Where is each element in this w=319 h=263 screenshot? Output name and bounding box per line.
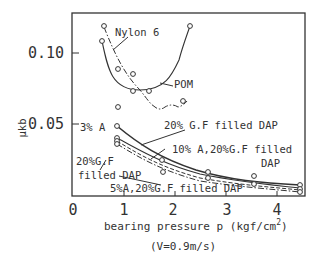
x-axis-label: bearing pressure p (kgf/cm2) — [104, 218, 288, 233]
y-tick-label-010: 0.10 — [28, 44, 64, 62]
y-tick-label-005: 0.05 — [28, 115, 64, 133]
x-tick-label-3: 3 — [222, 201, 231, 219]
label-nylon6: Nylon 6 — [115, 26, 159, 38]
label-pom: POM — [174, 78, 193, 90]
x-tick-label-0: 0 — [68, 201, 77, 219]
label-5a-20gf: 5%A,20%G.F filled DAP — [110, 182, 243, 194]
x-tick-label-2: 2 — [168, 201, 177, 219]
label-10a-20gf: 10% A,20%G.F filled — [172, 143, 292, 155]
condition-label: (V=0.9m/s) — [150, 240, 216, 253]
y-axis-label: μkb — [16, 119, 28, 138]
x-tick-label-4: 4 — [272, 201, 281, 219]
x-tick-label-1: 1 — [119, 201, 128, 219]
label-filled-dap: filled DAP — [78, 169, 141, 181]
label-3pct-a: 3% A — [80, 121, 106, 133]
friction-chart: 0.10 0.05 μkb 0 1 2 3 4 bearing pressure… — [0, 0, 319, 263]
label-dap: DAP — [261, 157, 280, 169]
label-20gf: 20%G.F — [76, 155, 114, 167]
label-20gf-dap: 20% G.F filled DAP — [164, 119, 278, 131]
